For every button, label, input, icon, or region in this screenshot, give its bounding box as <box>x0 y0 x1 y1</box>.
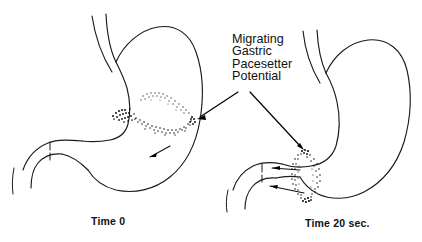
leader-arrow-left <box>197 92 238 120</box>
greater-curvature-time-0 <box>88 26 202 191</box>
esophagus-right-wall-time-20 <box>317 30 326 73</box>
antrum-lower-wall-time-20 <box>276 176 300 178</box>
pacesetter-band-time-0 <box>112 92 196 135</box>
band-propagation-arrowhead-time-0 <box>112 108 136 123</box>
antrum-lower-wall-time-0 <box>62 154 88 170</box>
stomach-time-0 <box>12 14 202 194</box>
annotation-leader-arrows <box>197 92 304 150</box>
duodenum-lower-wall-time-0 <box>31 154 62 188</box>
lesser-curvature-time-0 <box>82 62 130 142</box>
greater-curvature-time-20 <box>300 40 410 198</box>
motion-arrow-lower-time-20 <box>270 185 304 193</box>
annotation-label: Migrating Gastric Pacesetter Potential <box>232 32 296 83</box>
duodenum-upper-arc-time-0 <box>23 140 82 170</box>
esophagus-left-wall-time-0 <box>92 16 112 72</box>
diagram-canvas: Migrating Gastric Pacesetter Potential T… <box>0 0 422 242</box>
duodenum-lower-wall-time-20 <box>245 178 276 209</box>
leader-arrow-right <box>250 92 304 150</box>
duodenum-outer-edge-time-0 <box>12 168 14 194</box>
annotation-line-4: Potential <box>232 69 281 83</box>
caption-time-0: Time 0 <box>91 215 125 227</box>
duodenum-outer-edge-time-20 <box>226 190 228 212</box>
caption-time-20: Time 20 sec. <box>305 217 370 229</box>
esophagus-right-wall-time-0 <box>106 14 116 62</box>
motion-arrow-time-0 <box>150 146 170 157</box>
gastric-pacesetter-figure: Migrating Gastric Pacesetter Potential T… <box>0 0 422 242</box>
lesser-curvature-time-20 <box>282 73 339 167</box>
